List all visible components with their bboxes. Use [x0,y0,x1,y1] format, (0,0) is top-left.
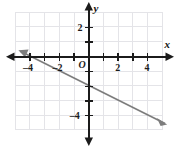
graph-canvas [0,0,179,150]
coordinate-plane-graph: –4 –2 2 4 2 –4 O x y [0,0,179,150]
x-axis-label: x [165,39,171,50]
x-axis [6,53,174,61]
y-axis-label: y [94,3,99,14]
x-tick-label--2: –2 [53,63,63,73]
y-axis [85,2,93,146]
y-tick-label--4: –4 [70,111,80,121]
origin-label: O [79,60,86,70]
x-tick-label-2: 2 [115,63,120,73]
x-tick-label-4: 4 [145,63,150,73]
y-tick-label-2: 2 [78,23,83,33]
x-tick-label--4: –4 [23,63,33,73]
